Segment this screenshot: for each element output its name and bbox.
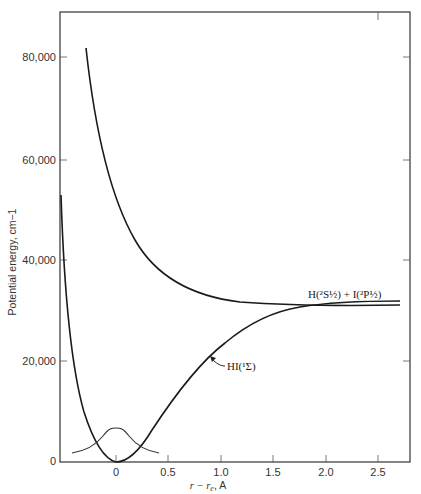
y-tick-label: 0: [50, 455, 56, 467]
x-tick-label: 1.0: [213, 466, 228, 478]
potential-energy-chart: 0 20,000 40,000 60,000 80,000 0 0.5 1.0 …: [0, 0, 421, 494]
upper-state-label: H(²S½) + I(²P½): [308, 288, 382, 301]
x-tick-label: 0: [113, 466, 119, 478]
repulsive-state-curve: [86, 48, 400, 305]
plot-frame: [60, 12, 410, 462]
x-axis-ticks: [116, 12, 378, 462]
x-tick-label: 2.5: [370, 466, 385, 478]
ground-state-curve: [61, 195, 400, 462]
y-axis-ticks: [60, 57, 410, 361]
x-tick-label: 2.0: [318, 466, 333, 478]
ground-state-label: HI(¹Σ): [227, 360, 256, 373]
y-tick-label: 60,000: [22, 154, 56, 166]
y-tick-label: 40,000: [22, 254, 56, 266]
x-tick-label: 1.5: [265, 466, 280, 478]
x-axis-title: r − re, A: [190, 479, 226, 493]
y-tick-label: 20,000: [22, 355, 56, 367]
y-axis-title: Potential energy, cm−1: [6, 208, 18, 315]
x-tick-labels: 0 0.5 1.0 1.5 2.0 2.5: [113, 466, 386, 478]
y-tick-labels: 0 20,000 40,000 60,000 80,000: [22, 51, 56, 467]
y-tick-label: 80,000: [22, 51, 56, 63]
arrowhead-icon: [210, 356, 216, 362]
x-tick-label: 0.5: [160, 466, 175, 478]
